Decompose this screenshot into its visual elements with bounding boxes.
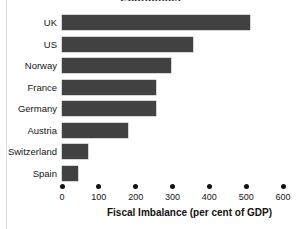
category-label: Spain bbox=[0, 166, 57, 181]
x-tick-dot bbox=[96, 184, 101, 189]
bar bbox=[62, 166, 78, 181]
category-label: Germany bbox=[0, 101, 57, 116]
x-tick-dot bbox=[207, 184, 212, 189]
bar bbox=[62, 58, 171, 73]
bar bbox=[62, 144, 88, 159]
bar-row: Spain bbox=[62, 163, 283, 185]
bar bbox=[62, 37, 193, 52]
x-tick-dot bbox=[133, 184, 138, 189]
bar bbox=[62, 80, 156, 95]
category-label: France bbox=[0, 80, 57, 95]
x-tick-dot bbox=[170, 184, 175, 189]
x-tick-label: 0 bbox=[42, 192, 82, 202]
bar bbox=[62, 123, 128, 138]
bar-row: Austria bbox=[62, 120, 283, 142]
x-tick-label: 200 bbox=[116, 192, 156, 202]
x-tick-label: 100 bbox=[79, 192, 119, 202]
category-label: US bbox=[0, 37, 57, 52]
category-label: Austria bbox=[0, 123, 57, 138]
category-label-text: US bbox=[0, 37, 57, 52]
x-tick-label: 500 bbox=[226, 192, 266, 202]
x-tick-label: 400 bbox=[189, 192, 229, 202]
category-label-text: Switzerland bbox=[0, 144, 57, 159]
x-tick-label: 600 bbox=[263, 192, 301, 202]
category-label-text: France bbox=[0, 80, 57, 95]
x-tick-dot bbox=[60, 184, 65, 189]
category-label-text: Norway bbox=[0, 58, 57, 73]
category-label: UK bbox=[0, 15, 57, 30]
chart-title: Economics bbox=[0, 0, 301, 1]
bar bbox=[62, 101, 156, 116]
bar-row: Norway bbox=[62, 55, 283, 77]
category-label-text: Spain bbox=[0, 166, 57, 181]
x-tick-dot bbox=[244, 184, 249, 189]
plot-area: UKUSNorwayFranceGermanyAustriaSwitzerlan… bbox=[62, 12, 283, 184]
category-label-text: UK bbox=[0, 15, 57, 30]
bar-row: Switzerland bbox=[62, 141, 283, 163]
x-tick-dot bbox=[281, 184, 286, 189]
x-axis: Fiscal Imbalance (per cent of GDP) 01002… bbox=[62, 184, 283, 229]
bar bbox=[62, 15, 250, 30]
bar-row: UK bbox=[62, 12, 283, 34]
bar-row: US bbox=[62, 34, 283, 56]
bar-row: Germany bbox=[62, 98, 283, 120]
x-tick-label: 300 bbox=[153, 192, 193, 202]
x-axis-title: Fiscal Imbalance (per cent of GDP) bbox=[62, 207, 301, 218]
category-label-text: Germany bbox=[0, 101, 57, 116]
category-label: Norway bbox=[0, 58, 57, 73]
category-label: Switzerland bbox=[0, 144, 57, 159]
bar-chart: Economics UKUSNorwayFranceGermanyAustria… bbox=[0, 0, 301, 229]
bar-row: France bbox=[62, 77, 283, 99]
category-label-text: Austria bbox=[0, 123, 57, 138]
